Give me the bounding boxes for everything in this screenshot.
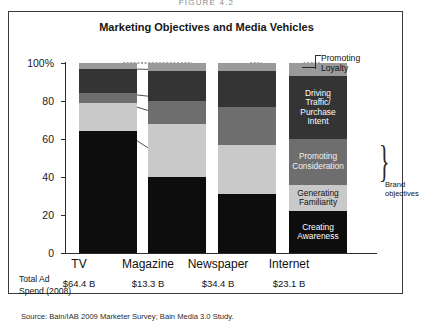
source-note: Source: Bain/IAB 2009 Marketer Survey; B… <box>21 312 234 321</box>
total-ad-spend-line1: Total Ad <box>19 274 79 286</box>
x-label-internet: Internet <box>246 257 332 271</box>
segment-newspaper-creating-awareness <box>218 194 276 253</box>
y-tick-100: 100% <box>61 63 66 64</box>
y-tick-label-80: 80 <box>42 95 54 107</box>
loyalty-callout-label: Promoting Loyalty <box>321 53 360 74</box>
plot-area: 100% 80 60 40 20 0 TV $64.4 B <box>65 63 377 253</box>
y-tick-20: 20 <box>61 215 66 216</box>
segment-magazine-promoting-consideration <box>148 101 206 124</box>
segment-tv-generating-familiarity <box>79 103 137 132</box>
segment-newspaper-driving-traffic <box>218 71 276 107</box>
y-tick-0: 0 <box>61 253 66 254</box>
brand-objectives-brace: } <box>379 148 390 175</box>
segment-magazine-driving-traffic <box>148 71 206 101</box>
chart-title: Marketing Objectives and Media Vehicles <box>9 21 404 33</box>
y-axis-line <box>65 62 66 254</box>
segment-tv-driving-traffic <box>79 69 137 94</box>
loyalty-callout-line1: Promoting <box>321 53 360 63</box>
y-tick-40: 40 <box>61 177 66 178</box>
segment-tv-promoting-loyalty <box>79 63 137 69</box>
bar-internet[interactable]: Creating Awareness Generating Familiarit… <box>289 63 347 253</box>
total-ad-spend-line2: Spend (2008) <box>19 286 79 298</box>
segment-newspaper-promoting-loyalty <box>218 63 276 71</box>
y-tick-label-100: 100% <box>27 57 54 69</box>
segment-internet-promoting-consideration: Promoting Consideration <box>289 139 347 185</box>
segment-tv-creating-awareness <box>79 131 137 253</box>
spend-value-internet: $23.1 B <box>246 278 332 289</box>
brand-objectives-line2: objectives <box>385 189 421 198</box>
segment-tv-promoting-consideration <box>79 93 137 103</box>
y-tick-label-20: 20 <box>42 209 54 221</box>
bar-magazine[interactable] <box>148 63 206 253</box>
y-tick-80: 80 <box>61 101 66 102</box>
y-tick-label-40: 40 <box>42 171 54 183</box>
y-tick-60: 60 <box>61 139 66 140</box>
legend-promoting-consideration-line2: Consideration <box>291 162 345 171</box>
segment-internet-creating-awareness: Creating Awareness <box>289 211 347 253</box>
segment-newspaper-generating-familiarity <box>218 145 276 194</box>
brand-objectives-label: Brand objectives <box>385 180 421 199</box>
x-axis-line <box>65 253 377 254</box>
legend-generating-familiarity-line2: Familiarity <box>296 198 339 207</box>
figure-frame: Marketing Objectives and Media Vehicles … <box>8 11 403 294</box>
figure-number: FIGURE 4.2 <box>0 0 413 7</box>
legend-driving-traffic-line4: Intent <box>299 117 336 126</box>
loyalty-callout-leader <box>302 67 316 68</box>
segment-newspaper-promoting-consideration <box>218 107 276 145</box>
bar-newspaper[interactable] <box>218 63 276 253</box>
brand-objectives-line1: Brand <box>385 180 421 189</box>
bar-tv[interactable] <box>79 63 137 253</box>
y-tick-label-60: 60 <box>42 133 54 145</box>
total-ad-spend-label: Total Ad Spend (2008) <box>19 274 79 297</box>
segment-internet-generating-familiarity: Generating Familiarity <box>289 185 347 212</box>
segment-magazine-generating-familiarity <box>148 124 206 177</box>
loyalty-callout-line2: Loyalty <box>321 63 360 73</box>
segment-magazine-creating-awareness <box>148 177 206 253</box>
segment-magazine-promoting-loyalty <box>148 63 206 71</box>
segment-internet-driving-traffic: Driving Traffic/ Purchase Intent <box>289 76 347 139</box>
legend-creating-awareness-line2: Awareness <box>296 232 339 241</box>
